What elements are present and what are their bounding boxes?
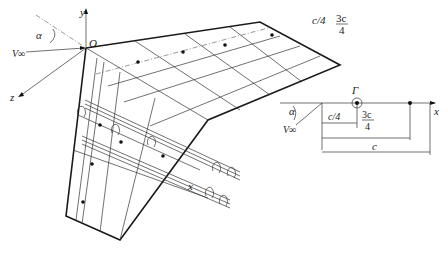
y-axis-label: y (79, 6, 85, 18)
alpha-label-2d: α (289, 105, 295, 117)
freestream-label-2d: V∞ (283, 124, 296, 135)
section-2d (280, 98, 436, 155)
x-axis-label-2d: x (433, 105, 439, 117)
quarter-dim-label: c/4 (328, 111, 340, 122)
chord-label: c (372, 140, 377, 152)
z-axis-label: z (9, 91, 15, 103)
three-quarter-num: 3c (336, 12, 347, 24)
three-quarter-den-2d: 4 (365, 121, 370, 132)
x-axis-label-3d: x (187, 180, 193, 192)
wing-vortex-diagram: y z O α V∞ (0, 0, 448, 261)
three-quarter-den: 4 (339, 24, 345, 36)
right-wing-grid (86, 27, 320, 126)
wing-outline (66, 22, 340, 240)
axes-3d (18, 8, 88, 97)
three-quarter-num-2d: 3c (362, 109, 372, 120)
quarter-chord-label: c/4 (312, 14, 326, 26)
circulation-label: Γ (351, 84, 359, 96)
freestream-label-3d: V∞ (12, 48, 25, 59)
alpha-label-3d: α (36, 29, 42, 41)
